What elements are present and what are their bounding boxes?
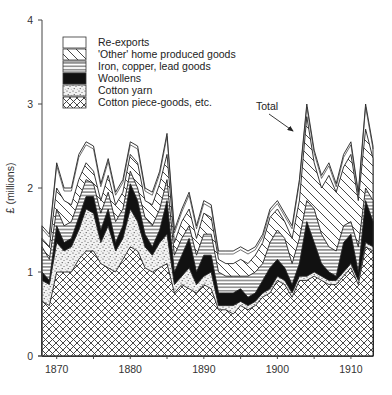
x-tick-label: 1870	[45, 363, 69, 375]
legend-swatch-stipple	[63, 85, 86, 96]
legend: Re-exports'Other' home produced goodsIro…	[58, 33, 236, 109]
legend-swatch-diagonal-lines	[63, 49, 86, 60]
x-tick-label: 1880	[119, 363, 143, 375]
legend-label: Iron, copper, lead goods	[98, 60, 211, 72]
stacked-area-chart: 01234 18701880189019001910 £ (millions) …	[0, 0, 392, 395]
x-tick-label: 1910	[339, 363, 363, 375]
y-tick-label: 0	[27, 350, 33, 362]
y-axis-label: £ (millions)	[4, 163, 16, 214]
legend-label: Re-exports	[98, 36, 149, 48]
total-arrow-icon	[269, 114, 293, 131]
total-annotation-label: Total	[256, 100, 278, 112]
legend-swatch-crosshatch	[63, 97, 86, 108]
y-tick-label: 1	[27, 266, 33, 278]
legend-label: Cotton yarn	[98, 84, 152, 96]
y-tick-label: 2	[27, 182, 33, 194]
y-tick-label: 3	[27, 98, 33, 110]
legend-label: Woollens	[98, 72, 141, 84]
total-annotation: Total	[256, 100, 293, 131]
legend-label: 'Other' home produced goods	[98, 48, 236, 60]
y-tick-label: 4	[27, 14, 33, 26]
x-ticks: 18701880189019001910	[45, 356, 363, 375]
legend-swatch-horizontal-lines	[63, 61, 86, 72]
x-tick-label: 1900	[266, 363, 290, 375]
legend-label: Cotton piece-goods, etc.	[98, 96, 212, 108]
x-tick-label: 1890	[192, 363, 216, 375]
y-ticks: 01234	[27, 14, 42, 362]
stacked-areas	[42, 104, 373, 356]
legend-swatch-solid-black	[63, 73, 86, 84]
legend-swatch-blank	[63, 37, 86, 48]
